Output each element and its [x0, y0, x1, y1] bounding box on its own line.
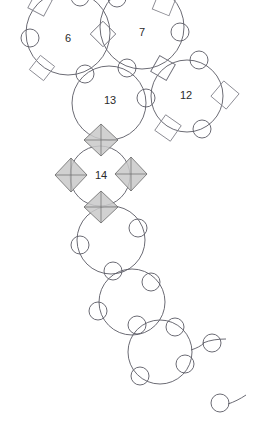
octahedron-icon [115, 157, 147, 191]
octahedron-icon [84, 191, 118, 223]
node-circle [203, 334, 221, 352]
node-circle [21, 29, 39, 47]
node-square [151, 56, 176, 81]
ring-c [128, 320, 192, 384]
octahedron-edge [55, 158, 87, 192]
ring-labels-group: 6 7 13 12 14 [65, 26, 192, 181]
node-circle [166, 318, 184, 336]
ring-chain-diagram: 6 7 13 12 14 [0, 0, 263, 442]
tail-ring-c-connector [191, 343, 204, 350]
node-circle [131, 367, 149, 385]
ring-label-14: 14 [95, 169, 107, 181]
node-squares-group [28, 0, 239, 141]
node-circle [211, 394, 229, 412]
node-circle [142, 273, 160, 291]
tail-lower-right-icon [228, 395, 246, 404]
ring-label-12: 12 [180, 89, 192, 101]
node-circle [104, 262, 122, 280]
ring-label-13: 13 [104, 94, 116, 106]
ring-label-7: 7 [139, 26, 145, 38]
node-circle [176, 355, 194, 373]
node-square [29, 55, 54, 80]
node-circle [89, 302, 107, 320]
node-circle [108, 0, 126, 7]
octahedron-edge [84, 191, 118, 223]
node-circle [71, 0, 89, 6]
node-square [211, 81, 239, 109]
ring-label-6: 6 [65, 32, 71, 44]
node-circle [71, 236, 89, 254]
figure-root: 6 7 13 12 14 [0, 0, 263, 442]
octahedron-edge [84, 124, 118, 156]
node-circle [171, 23, 189, 41]
octahedron-icon [55, 158, 87, 192]
node-square [28, 0, 52, 16]
octahedron-icon [84, 124, 118, 156]
octahedron-edge [115, 157, 147, 191]
ring-outlines-group [26, 0, 223, 384]
tail-upper-right-icon [203, 339, 226, 343]
node-circle [129, 219, 147, 237]
node-square [152, 0, 175, 16]
